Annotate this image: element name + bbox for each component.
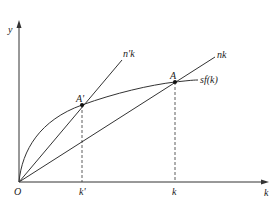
diagram-canvas: [0, 0, 276, 207]
y-axis-arrow-icon: [17, 20, 22, 28]
origin-label: O: [14, 187, 21, 197]
tick-k-prime: k': [79, 187, 86, 197]
x-axis-label: k: [264, 188, 268, 198]
label-n-prime-k: n'k: [123, 49, 135, 59]
y-axis-label: y: [8, 25, 12, 35]
curve-sf-k: [19, 80, 198, 182]
solow-diagram: y k O n'k nk sf(k) A' A k' k: [0, 0, 276, 207]
line-nk: [19, 57, 215, 182]
label-a-prime: A': [76, 94, 84, 104]
label-a: A: [170, 71, 176, 81]
tick-k: k: [172, 187, 176, 197]
label-sf-k: sf(k): [200, 75, 218, 85]
x-axis-arrow-icon: [261, 180, 269, 185]
line-n-prime-k: [19, 60, 122, 182]
label-nk: nk: [217, 50, 226, 60]
